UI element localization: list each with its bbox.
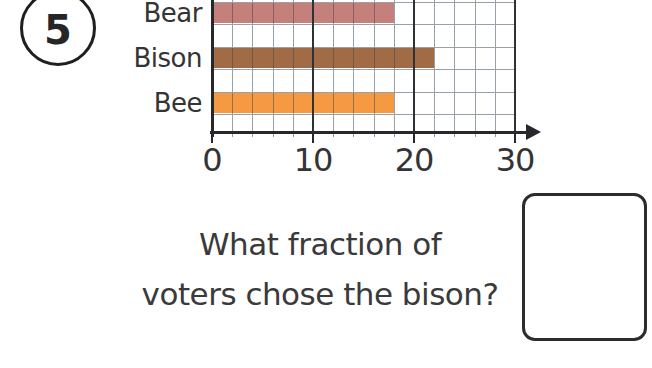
bar-bison (212, 48, 434, 68)
y-axis-line (211, 0, 214, 137)
x-axis-line (210, 131, 527, 134)
x-tick-label-10: 10 (273, 141, 353, 179)
major-gridline-30 (514, 0, 516, 137)
plot-area (212, 0, 515, 137)
question-text-line2: voters chose the bison? (100, 269, 540, 319)
major-gridline-20 (413, 0, 415, 137)
major-gridline-10 (312, 0, 314, 137)
x-tick-label-20: 20 (374, 141, 454, 179)
category-label-bison: Bison (40, 44, 202, 72)
question-text-line1: What fraction of (100, 219, 540, 269)
bar-bee (212, 93, 394, 113)
x-tick-label-30: 30 (475, 141, 555, 179)
x-axis-arrow-icon (526, 124, 541, 140)
category-label-bear: Bear (40, 0, 202, 27)
question-text: What fraction of voters chose the bison? (100, 219, 540, 319)
bar-bear (212, 3, 394, 23)
category-label-bee: Bee (40, 89, 202, 117)
x-tick-label-0: 0 (172, 141, 252, 179)
answer-box[interactable] (522, 193, 647, 341)
worksheet-question-panel: 5 BearBisonBee 0102030 What fraction of … (0, 0, 652, 368)
